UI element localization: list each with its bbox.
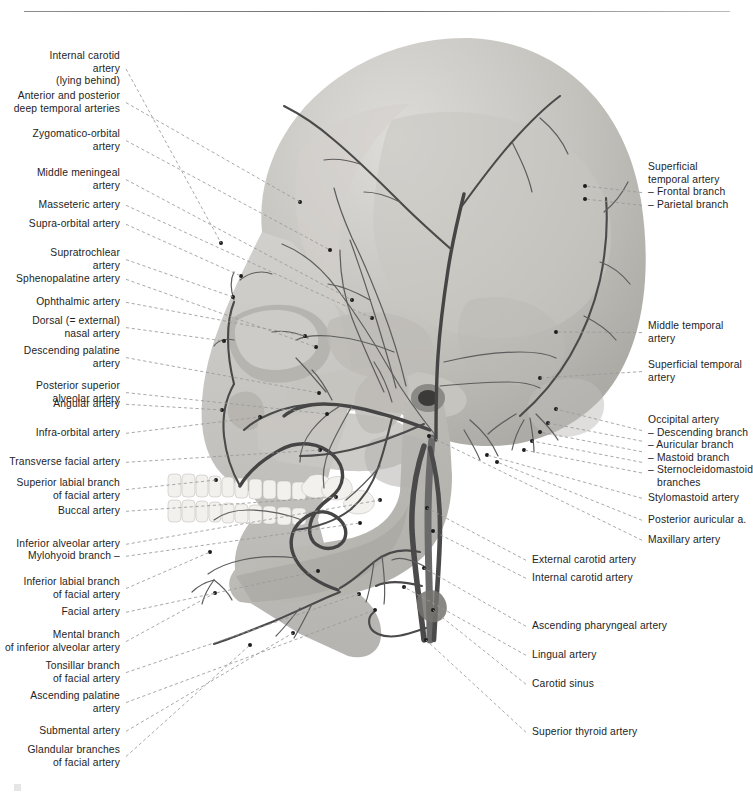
label-mental-branch: Mental branch of inferior alveolar arter… bbox=[5, 629, 120, 654]
label-inferior-alveolar-artery: Inferior alveolar artery bbox=[16, 538, 120, 551]
label-mylohyoid-branch: Mylohyoid branch – bbox=[28, 550, 120, 563]
figure-page: Internal carotid artery (lying behind)An… bbox=[0, 0, 753, 802]
label-ophthalmic-artery: Ophthalmic artery bbox=[36, 296, 120, 309]
label-lingual-artery: Lingual artery bbox=[532, 649, 597, 662]
label-tonsillar-branch: Tonsillar branch of facial artery bbox=[45, 660, 120, 685]
external-acoustic-meatus bbox=[411, 384, 445, 412]
label-superficial-temporal-artery: Superficial temporal artery bbox=[648, 359, 742, 384]
label-descending-palatine-artery: Descending palatine artery bbox=[24, 345, 120, 370]
label-supra-orbital-artery: Supra-orbital artery bbox=[29, 218, 120, 231]
label-posterior-auricular-artery: Posterior auricular a. bbox=[648, 514, 746, 527]
label-superior-labial-branch: Superior labial branch of facial artery bbox=[17, 477, 120, 502]
label-facial-artery: Facial artery bbox=[61, 606, 120, 619]
label-dorsal-nasal-artery: Dorsal (= external) nasal artery bbox=[32, 315, 120, 340]
label-internal-carotid-artery: Internal carotid artery (lying behind) bbox=[49, 50, 120, 88]
label-superficial-temporal-artery-branches: Superficial temporal artery – Frontal br… bbox=[648, 161, 728, 211]
label-glandular-branches: Glandular branches of facial artery bbox=[27, 744, 120, 769]
label-occipital-artery-group: Occipital artery – Descending branch – A… bbox=[648, 414, 753, 490]
label-middle-temporal-artery: Middle temporal artery bbox=[648, 320, 724, 345]
label-ascending-palatine-artery: Ascending palatine artery bbox=[30, 690, 120, 715]
label-transverse-facial-artery: Transverse facial artery bbox=[9, 456, 120, 469]
label-middle-meningeal-artery: Middle meningeal artery bbox=[37, 167, 120, 192]
label-ascending-pharyngeal-artery: Ascending pharyngeal artery bbox=[532, 620, 667, 633]
label-angular-artery: Angular artery bbox=[53, 398, 120, 411]
label-sphenopalatine-artery: Sphenopalatine artery bbox=[16, 273, 120, 286]
label-infra-orbital-artery: Infra-orbital artery bbox=[36, 427, 120, 440]
label-deep-temporal-arteries: Anterior and posterior deep temporal art… bbox=[14, 90, 120, 115]
label-carotid-sinus: Carotid sinus bbox=[532, 678, 594, 691]
label-stylomastoid-artery: Stylomastoid artery bbox=[648, 492, 739, 505]
label-submental-artery: Submental artery bbox=[39, 725, 120, 738]
label-supratrochlear-artery: Supratrochlear artery bbox=[50, 247, 120, 272]
label-inferior-labial-branch: Inferior labial branch of facial artery bbox=[23, 576, 120, 601]
label-maxillary-artery: Maxillary artery bbox=[648, 534, 720, 547]
label-internal-carotid-artery-right: Internal carotid artery bbox=[532, 572, 633, 585]
label-masseteric-artery: Masseteric artery bbox=[38, 199, 120, 212]
label-buccal-artery: Buccal artery bbox=[58, 505, 120, 518]
label-superior-thyroid-artery: Superior thyroid artery bbox=[532, 726, 637, 739]
label-zygomatico-orbital-artery: Zygomatico-orbital artery bbox=[33, 128, 120, 153]
label-external-carotid-artery: External carotid artery bbox=[532, 554, 636, 567]
